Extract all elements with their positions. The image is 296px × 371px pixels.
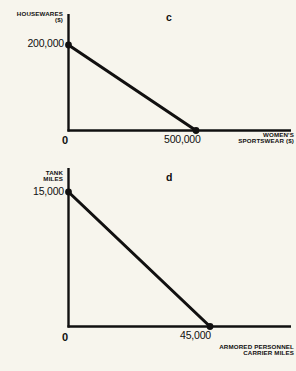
y-intercept-label-d: 15,000 [0, 186, 64, 197]
ppf-line-d [69, 192, 211, 327]
origin-label-c: 0 [62, 135, 74, 146]
ppf-endpoint-y-d [65, 189, 72, 196]
ppf-endpoint-y-c [65, 42, 72, 49]
ppf-line-c [69, 45, 197, 131]
y-axis-title-c: HOUSEWARES ($) [0, 11, 63, 24]
panel-letter-c: c [166, 12, 180, 23]
origin-label-d: 0 [62, 332, 74, 343]
x-axis-title-c: WOMEN'S SPORTSWEAR ($) [215, 132, 294, 145]
figure-c: HOUSEWARES ($) 200,000 0 500,000 WOMEN'S… [0, 0, 296, 160]
figure-d: TANK MILES 15,000 0 45,000 ARMORED PERSO… [0, 160, 296, 371]
figure-page: { "page": { "background_color": "#f7f5ed… [0, 0, 296, 371]
y-intercept-label-c: 200,000 [0, 38, 64, 49]
panel-letter-d: d [166, 172, 180, 183]
x-intercept-label-d: 45,000 [180, 330, 240, 341]
x-axis-title-d: ARMORED PERSONNEL CARRIER MILES [190, 344, 294, 357]
y-axis-title-d: TANK MILES [0, 170, 63, 183]
